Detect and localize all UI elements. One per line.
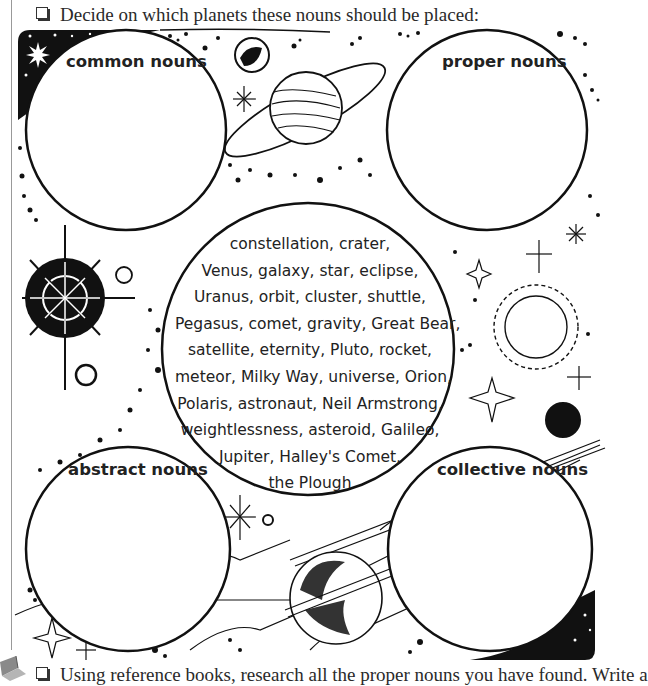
word-bank-line: Pegasus, comet, gravity, Great Bear, — [175, 311, 445, 338]
word-bank-line: meteor, Milky Way, universe, Orion, — [175, 364, 445, 391]
checkbox-icon[interactable] — [36, 667, 48, 679]
word-bank-line: Polaris, astronaut, Neil Armstrong, — [175, 391, 445, 418]
instruction-bottom: Using reference books, research all the … — [36, 664, 648, 686]
word-bank-line: constellation, crater, — [175, 231, 445, 258]
word-bank-line: weightlessness, asteroid, Galileo, — [175, 417, 445, 444]
word-bank-line: the Plough — [175, 470, 445, 497]
book-icon — [0, 650, 28, 681]
word-bank-line: Jupiter, Halley's Comet, — [175, 444, 445, 471]
instruction-bottom-text: Using reference books, research all the … — [60, 664, 648, 685]
common-nouns-label: common nouns — [66, 52, 207, 71]
word-bank-line: Venus, galaxy, star, eclipse, — [175, 258, 445, 285]
word-bank-line: Uranus, orbit, cluster, shuttle, — [175, 284, 445, 311]
word-bank: constellation, crater, Venus, galaxy, st… — [175, 231, 445, 497]
word-bank-line: satellite, eternity, Pluto, rocket, — [175, 337, 445, 364]
collective-nouns-label: collective nouns — [437, 460, 588, 479]
proper-nouns-label: proper nouns — [442, 52, 567, 71]
